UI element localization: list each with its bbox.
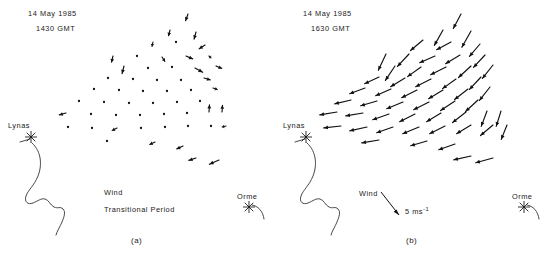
wind-calm-dot xyxy=(90,113,92,115)
wind-calm-dot xyxy=(156,79,158,81)
wind-calm-dot xyxy=(152,102,154,104)
wind-calm-dot xyxy=(78,100,80,102)
wind-calm-dot xyxy=(210,125,212,127)
wind-calm-dot xyxy=(199,100,201,102)
wind-calm-dot xyxy=(164,126,166,128)
panel-b-station-orme-marker xyxy=(518,201,539,219)
wind-calm-dot xyxy=(171,66,173,68)
wind-calm-dot xyxy=(140,127,142,129)
wind-calm-dot xyxy=(186,112,188,114)
wind-calm-dot xyxy=(163,113,165,115)
wind-calm-dot xyxy=(132,78,134,80)
panel-a-station-lynas-marker xyxy=(25,131,37,143)
panel-b-vector-canvas xyxy=(275,0,549,256)
panel-a-coastline xyxy=(20,139,65,235)
wind-calm-dot xyxy=(106,140,108,142)
wind-calm-dot xyxy=(190,89,192,91)
wind-vector-head xyxy=(220,105,224,108)
wind-vector-head xyxy=(350,91,355,95)
wind-calm-dot xyxy=(176,101,178,103)
wind-calm-dot xyxy=(136,55,138,57)
wind-vector-head xyxy=(189,157,193,161)
wind-calm-dot xyxy=(142,90,144,92)
wind-vector-head xyxy=(361,103,366,107)
wind-vector-head xyxy=(167,32,171,35)
wind-calm-dot xyxy=(91,127,93,129)
panel-b-station-lynas-marker xyxy=(300,131,312,143)
panel-a-station-orme-marker xyxy=(243,201,264,219)
wind-calm-dot xyxy=(128,102,130,104)
wind-calm-dot xyxy=(118,89,120,91)
wind-calm-dot xyxy=(67,126,69,128)
wind-vector-head xyxy=(373,117,378,121)
wind-vector-head xyxy=(207,105,211,109)
wind-calm-dot xyxy=(107,77,109,79)
panel-b-vectors xyxy=(320,14,507,164)
wind-vector-head xyxy=(439,147,444,151)
panel-b-wind-map: 14 May 1985 1630 GMT Lynas Orme Wind 5 m… xyxy=(275,0,549,256)
panel-a-vectors xyxy=(59,14,226,164)
wind-vector-head xyxy=(481,122,485,127)
wind-vector-head xyxy=(411,143,416,147)
wind-vector-head xyxy=(110,59,114,63)
wind-calm-dot xyxy=(115,114,117,116)
panel-b-scale-arrow xyxy=(381,192,399,215)
wind-calm-dot xyxy=(180,79,182,81)
wind-calm-dot xyxy=(147,67,149,69)
panel-a-vector-canvas xyxy=(0,0,274,256)
wind-calm-dot xyxy=(187,125,189,127)
panel-b-coastline xyxy=(295,139,340,235)
wind-vector-head xyxy=(377,130,382,134)
wind-calm-dot xyxy=(166,90,168,92)
panel-a-wind-map: 14 May 1985 1430 GMT Lynas Orme Wind Tra… xyxy=(0,0,274,256)
wind-calm-dot xyxy=(93,88,95,90)
wind-vector-head xyxy=(496,122,500,127)
wind-calm-dot xyxy=(103,101,105,103)
wind-calm-dot xyxy=(175,41,177,43)
wind-calm-dot xyxy=(139,114,141,116)
